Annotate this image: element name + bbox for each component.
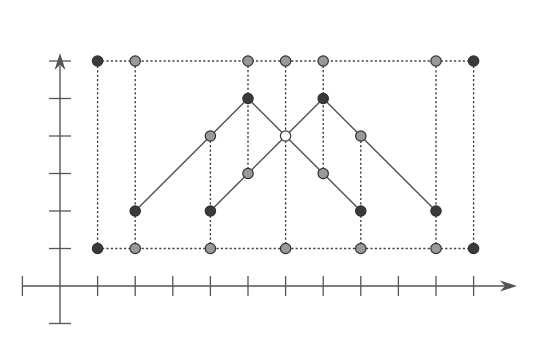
gray-point <box>356 243 366 253</box>
dark-point <box>468 56 478 66</box>
dark-point <box>431 206 441 216</box>
dark-point <box>92 56 102 66</box>
gray-point <box>356 131 366 141</box>
gray-point <box>130 56 140 66</box>
dark-point <box>356 206 366 216</box>
gray-point <box>431 56 441 66</box>
gray-point <box>318 168 328 178</box>
dark-point <box>318 93 328 103</box>
diagram-canvas <box>0 0 538 351</box>
gray-point <box>243 168 253 178</box>
gray-point <box>318 56 328 66</box>
gray-point <box>431 243 441 253</box>
gray-point <box>205 131 215 141</box>
dotted-lattice <box>98 61 474 249</box>
axes <box>22 53 517 324</box>
dark-point <box>205 206 215 216</box>
dark-point <box>243 93 253 103</box>
gray-point <box>205 243 215 253</box>
gray-point <box>243 56 253 66</box>
hollow-point <box>280 131 290 141</box>
gray-point <box>280 56 290 66</box>
dark-point <box>130 206 140 216</box>
dark-point <box>468 243 478 253</box>
dark-point <box>92 243 102 253</box>
gray-point <box>130 243 140 253</box>
gray-point <box>280 243 290 253</box>
